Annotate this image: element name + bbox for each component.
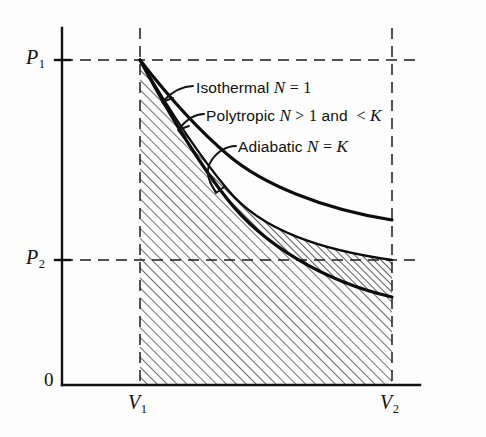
annotation-isothermal: Isothermal N = 1 bbox=[196, 78, 311, 98]
annotation-adiabatic-relation: = bbox=[323, 138, 332, 155]
y-axis-label-p1: P1 bbox=[26, 46, 45, 72]
annotation-polytropic-name: Polytropic bbox=[206, 107, 275, 124]
x-axis-label-v1-sub: 1 bbox=[141, 402, 147, 416]
x-axis-label-v1-main: V bbox=[128, 391, 140, 413]
x-axis-label-v2-sub: 2 bbox=[393, 402, 399, 416]
annotation-isothermal-value: 1 bbox=[303, 79, 311, 96]
annotation-polytropic-relation2: < bbox=[356, 107, 365, 124]
y-axis-label-p2-sub: 2 bbox=[39, 257, 45, 271]
x-axis-label-v2: V2 bbox=[380, 391, 399, 417]
pv-diagram-canvas bbox=[0, 0, 486, 437]
y-axis-label-p2: P2 bbox=[26, 246, 45, 272]
x-axis-label-v2-main: V bbox=[380, 391, 392, 413]
annotation-polytropic: Polytropic N > 1 and < K bbox=[206, 106, 381, 126]
annotation-isothermal-name: Isothermal bbox=[196, 79, 269, 96]
annotation-adiabatic: Adiabatic N = K bbox=[238, 137, 348, 157]
annotation-adiabatic-value: K bbox=[337, 137, 348, 156]
annotation-polytropic-conjunction: and bbox=[321, 107, 347, 124]
y-axis-label-p1-sub: 1 bbox=[39, 57, 45, 71]
pv-diagram-figure: P1 P2 V1 V2 0 Isothermal N = 1 Polytropi… bbox=[0, 0, 486, 437]
annotation-adiabatic-name: Adiabatic bbox=[238, 138, 303, 155]
leader-polytropic bbox=[178, 114, 204, 138]
y-axis-label-p1-main: P bbox=[26, 46, 38, 68]
x-axis-label-v1: V1 bbox=[128, 391, 147, 417]
annotation-adiabatic-symbol: N bbox=[307, 137, 318, 156]
annotation-polytropic-symbol: N bbox=[279, 106, 290, 125]
axis-origin-label: 0 bbox=[44, 369, 54, 391]
annotation-isothermal-relation: = bbox=[290, 79, 299, 96]
annotation-polytropic-value2: K bbox=[370, 106, 381, 125]
annotation-isothermal-symbol: N bbox=[274, 78, 285, 97]
y-axis-label-p2-main: P bbox=[26, 246, 38, 268]
annotation-polytropic-value: 1 bbox=[309, 107, 317, 124]
